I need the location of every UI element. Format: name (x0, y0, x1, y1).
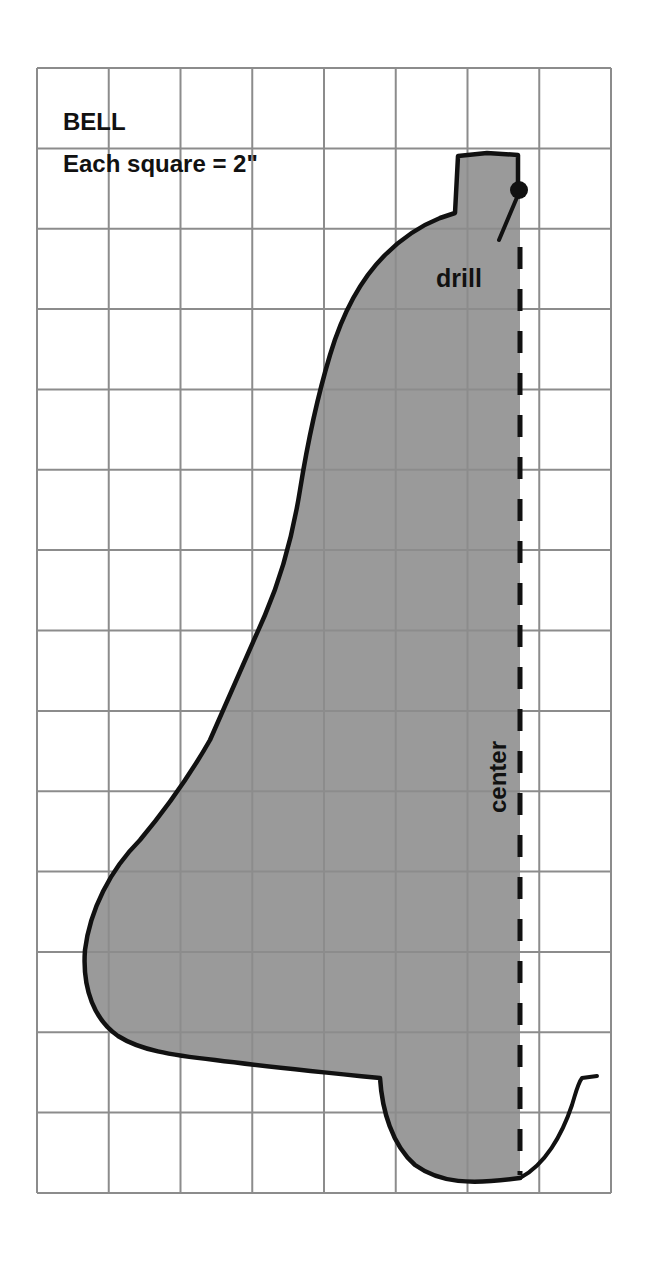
drill-label: drill (436, 264, 482, 292)
clapper-hook (520, 1076, 597, 1178)
bell-shape-fill (85, 153, 520, 1182)
center-label: center (484, 741, 511, 813)
bell-pattern-diagram: BELL Each square = 2" drill center (0, 0, 656, 1261)
scale-label: Each square = 2" (63, 150, 258, 177)
diagram-title: BELL (63, 108, 126, 135)
